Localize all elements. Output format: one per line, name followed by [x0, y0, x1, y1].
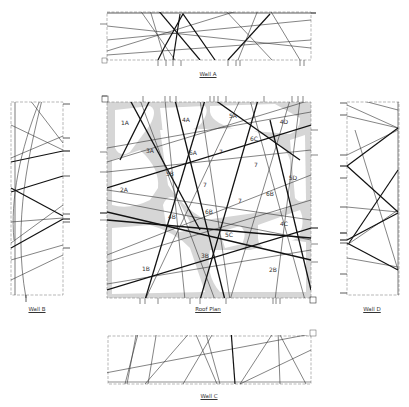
zone-label: 6C: [250, 135, 258, 142]
zone-label: 7: [254, 161, 258, 168]
zone-label: 3B: [201, 252, 209, 259]
zone-label: 5C: [225, 231, 233, 238]
wall-a-elevation: [100, 10, 316, 66]
zone-label: 4D: [280, 118, 288, 125]
zone-label: 1B: [142, 265, 150, 272]
drawing-canvas: [0, 0, 409, 407]
zone-label: 6B: [266, 190, 274, 197]
wall-b-elevation: [11, 100, 70, 302]
zone-label: 3A: [146, 147, 154, 154]
zone-label: 4C: [280, 220, 288, 227]
zone-label: 7: [219, 148, 223, 155]
zone-label: 5D: [289, 174, 297, 181]
zone-label: 2A: [120, 186, 128, 193]
wall-c-label: Wall C: [200, 393, 217, 399]
zone-label: 1A: [121, 119, 129, 126]
wall-d-elevation: [340, 100, 399, 295]
zone-label: 2B: [269, 266, 277, 273]
wall-b-label: Wall B: [28, 306, 45, 312]
zone-label: 6A: [189, 149, 197, 156]
zone-label: 6B: [205, 208, 213, 215]
roof-plan-label: Roof Plan: [195, 306, 221, 312]
zone-label: 5B: [166, 170, 174, 177]
zone-label: 5A: [229, 112, 237, 119]
wall-c-elevation: [100, 330, 316, 384]
wall-d-label: Wall D: [363, 306, 381, 312]
wall-a-label: Wall A: [199, 71, 216, 77]
zone-label: 4A: [182, 116, 190, 123]
zone-label: 7: [203, 181, 207, 188]
roof-plan: [100, 96, 318, 304]
zone-label: 4B: [168, 213, 176, 220]
zone-label: 7: [238, 197, 242, 204]
